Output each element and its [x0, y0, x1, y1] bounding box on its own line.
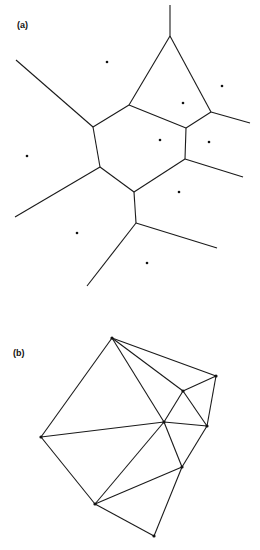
voronoi-edge — [100, 167, 134, 192]
voronoi-edge — [93, 127, 100, 167]
triangulation-vertex — [214, 374, 217, 377]
triangulation-edge — [183, 391, 207, 426]
voronoi-site — [76, 232, 79, 235]
panel-label-b: (b) — [13, 348, 25, 358]
triangulation-edge — [164, 422, 182, 467]
diagram-canvas — [0, 0, 260, 550]
voronoi-edge — [87, 223, 136, 286]
voronoi-site — [26, 155, 29, 158]
triangulation-edge — [183, 376, 216, 391]
voronoi-edge — [186, 112, 211, 128]
voronoi-diagram-panel-a — [15, 5, 250, 286]
triangulation-edge — [112, 338, 183, 391]
voronoi-edge — [129, 36, 170, 105]
figure: (a) (b) — [0, 0, 260, 550]
triangulation-vertex — [152, 534, 155, 537]
voronoi-edge — [185, 159, 243, 177]
triangulation-vertex — [180, 465, 183, 468]
triangulation-edge — [182, 426, 207, 467]
triangulation-edge — [95, 504, 154, 536]
triangulation-edge — [112, 338, 164, 422]
triangulation-vertex — [93, 502, 96, 505]
voronoi-edge — [129, 105, 186, 128]
voronoi-site — [182, 102, 185, 105]
voronoi-edge — [185, 128, 186, 159]
voronoi-site — [208, 141, 211, 144]
voronoi-site — [106, 61, 109, 64]
triangulation-edge — [164, 422, 207, 426]
voronoi-site — [146, 262, 149, 265]
triangulation-edge — [41, 422, 164, 437]
delaunay-triangulation-panel-b — [39, 336, 217, 537]
triangulation-vertex — [39, 435, 42, 438]
triangulation-edge — [41, 437, 95, 504]
triangulation-vertex — [181, 389, 184, 392]
triangulation-edge — [95, 422, 164, 504]
voronoi-site — [221, 85, 224, 88]
voronoi-edge — [170, 36, 211, 112]
voronoi-edge — [15, 167, 100, 217]
voronoi-edge — [134, 159, 185, 192]
voronoi-site — [178, 191, 181, 194]
triangulation-edge — [164, 391, 183, 422]
triangulation-vertex — [162, 420, 165, 423]
panel-label-a: (a) — [17, 20, 28, 30]
triangulation-edge — [112, 338, 216, 376]
voronoi-edge — [136, 223, 217, 248]
voronoi-edge — [134, 192, 136, 223]
voronoi-edge — [211, 112, 250, 123]
voronoi-edge — [16, 60, 93, 127]
voronoi-site — [159, 139, 162, 142]
triangulation-vertex — [205, 424, 208, 427]
triangulation-edge — [41, 338, 112, 437]
triangulation-edge — [207, 376, 216, 426]
triangulation-vertex — [110, 336, 113, 339]
voronoi-edge — [93, 105, 129, 127]
